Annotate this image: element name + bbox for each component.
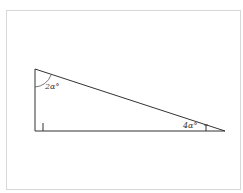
angle-label-right: 4α° xyxy=(183,121,198,130)
triangle-diagram xyxy=(0,0,243,193)
angle-label-top: 2α° xyxy=(45,82,60,91)
